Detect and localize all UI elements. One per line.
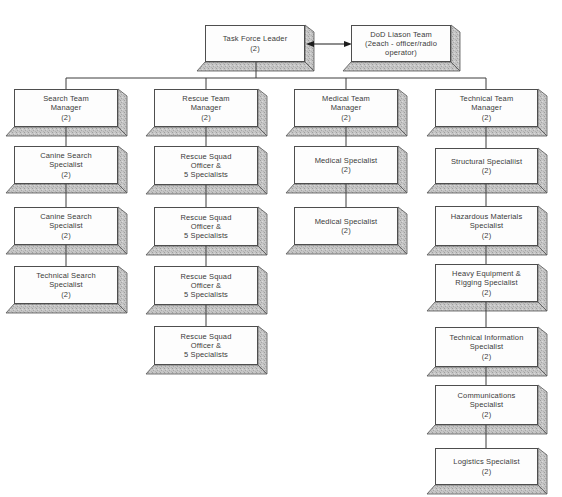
- node-communications-specialist: CommunicationsSpecialist(2): [435, 385, 538, 425]
- node-rescue-squad-4: Rescue SquadOfficer &5 Specialists: [154, 326, 258, 365]
- node-hazardous-materials-specialist: Hazardous MaterialsSpecialist(2): [435, 206, 538, 246]
- org-chart: Task Force Leader(2) DoD Liason Team(2ea…: [0, 0, 562, 497]
- node-dod-liason-team: DoD Liason Team(2each - officer/radioope…: [351, 25, 451, 62]
- node-technical-search-specialist: Technical SearchSpecialist(2): [14, 266, 118, 304]
- node-canine-search-specialist-2: Canine SearchSpecialist(2): [14, 207, 118, 245]
- node-technical-information-specialist: Technical InformationSpecialist(2): [435, 327, 538, 367]
- node-search-team-manager: Search TeamManager(2): [14, 89, 118, 127]
- node-task-force-leader: Task Force Leader(2): [205, 25, 305, 62]
- node-canine-search-specialist-1: Canine SearchSpecialist(2): [14, 146, 118, 184]
- node-structural-specialist: Structural Specialiist(2): [435, 148, 538, 184]
- node-medical-team-manager: Medical TeamManager(2): [294, 89, 398, 127]
- node-medical-specialist-2: Medical Specialist(2): [294, 207, 398, 245]
- node-technical-team-manager: Technical TeamManager(2): [435, 89, 538, 127]
- node-rescue-squad-3: Rescue SquadOfficer &5 Specialists: [154, 266, 258, 305]
- node-heavy-equipment-rigging-specialist: Heavy Equipment &Rigging Specialist(2): [435, 264, 538, 302]
- node-medical-specialist-1: Medical Specialist(2): [294, 146, 398, 184]
- node-rescue-squad-1: Rescue SquadOfficer &5 Specialists: [154, 146, 258, 185]
- node-rescue-squad-2: Rescue SquadOfficer &5 Specialists: [154, 207, 258, 246]
- node-rescue-team-manager: Rescue TeamManager(2): [154, 89, 258, 127]
- node-logistics-specialist: Logistics Specialist(2): [435, 448, 538, 485]
